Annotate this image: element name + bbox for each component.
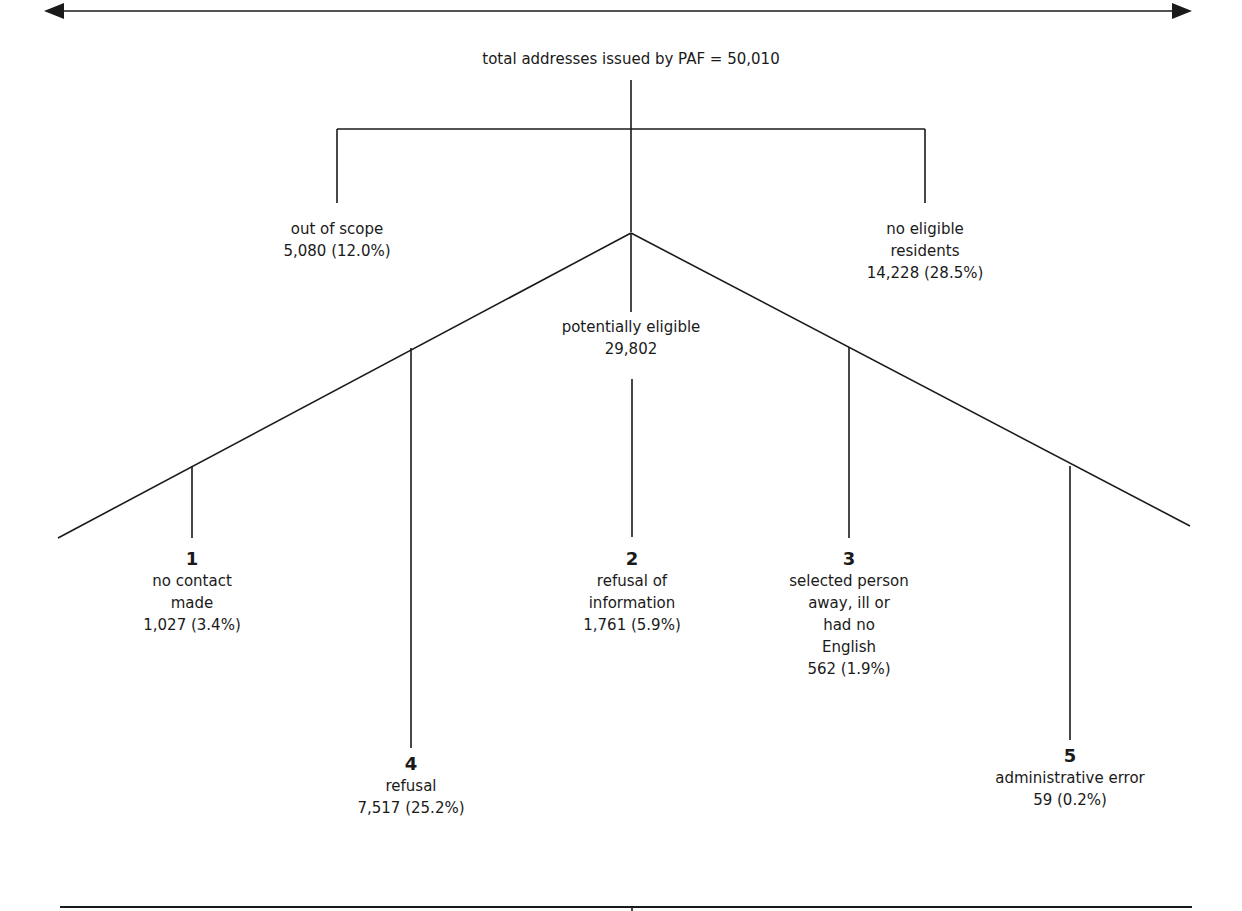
arrow-right-icon [1172, 3, 1192, 19]
outcome-number: 4 [357, 753, 464, 775]
arrow-left-icon [44, 3, 64, 19]
root-label: total addresses issued by PAF = 50,010 [482, 48, 779, 70]
outcome-value: 7,517 (25.2%) [357, 797, 464, 819]
roof-left [58, 233, 631, 538]
outcome-3-selected-person-away: 3 selected person away, ill or had no En… [789, 548, 909, 680]
outcome-label: information [583, 592, 681, 614]
node-out-of-scope: out of scope 5,080 (12.0%) [283, 218, 390, 262]
node-potentially-eligible: potentially eligible 29,802 [562, 316, 701, 360]
outcome-value: 1,761 (5.9%) [583, 614, 681, 636]
outcome-value: 59 (0.2%) [995, 789, 1144, 811]
outcome-label: had no [789, 614, 909, 636]
outcome-4-refusal: 4 refusal 7,517 (25.2%) [357, 753, 464, 819]
node-label: out of scope [283, 218, 390, 240]
outcome-value: 1,027 (3.4%) [143, 614, 241, 636]
outcome-number: 5 [995, 745, 1144, 767]
node-label: no eligible [867, 218, 984, 240]
outcome-label: made [143, 592, 241, 614]
outcome-label: English [789, 636, 909, 658]
node-label: residents [867, 240, 984, 262]
node-value: 29,802 [562, 338, 701, 360]
outcome-number: 3 [789, 548, 909, 570]
outcome-5-administrative-error: 5 administrative error 59 (0.2%) [995, 745, 1144, 811]
node-label: potentially eligible [562, 316, 701, 338]
node-value: 5,080 (12.0%) [283, 240, 390, 262]
outcome-label: administrative error [995, 767, 1144, 789]
outcome-2-refusal-of-information: 2 refusal of information 1,761 (5.9%) [583, 548, 681, 636]
outcome-number: 2 [583, 548, 681, 570]
root-label-text: total addresses issued by PAF = 50,010 [482, 48, 779, 70]
outcome-label: away, ill or [789, 592, 909, 614]
outcome-1-no-contact: 1 no contact made 1,027 (3.4%) [143, 548, 241, 636]
outcome-label: refusal of [583, 570, 681, 592]
node-no-eligible-residents: no eligible residents 14,228 (28.5%) [867, 218, 984, 284]
outcome-label: selected person [789, 570, 909, 592]
outcome-label: no contact [143, 570, 241, 592]
node-value: 14,228 (28.5%) [867, 262, 984, 284]
outcome-label: refusal [357, 775, 464, 797]
outcome-value: 562 (1.9%) [789, 658, 909, 680]
outcome-number: 1 [143, 548, 241, 570]
